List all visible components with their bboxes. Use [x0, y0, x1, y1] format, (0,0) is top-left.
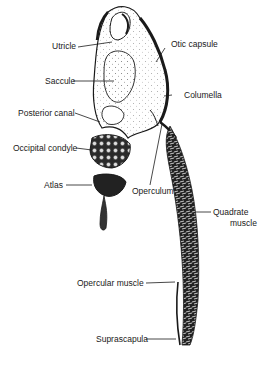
label-saccule: Saccule: [45, 77, 75, 86]
label-atlas: Atlas: [44, 181, 63, 190]
label-quadrate-muscle: muscle: [230, 219, 257, 228]
label-suprascapula: Suprascapula: [96, 335, 148, 344]
label-posterior-canal: Posterior canal: [18, 109, 75, 118]
label-columella: Columella: [184, 91, 222, 100]
anatomy-figure: Utricle Saccule Posterior canal Occipita…: [0, 0, 269, 377]
label-opercular-muscle: Opercular muscle: [77, 279, 144, 288]
label-otic-capsule: Otic capsule: [171, 40, 218, 49]
label-occipital-condyle: Occipital condyle: [13, 144, 77, 153]
label-quadrate: Quadrate: [213, 208, 248, 217]
label-operculum: Operculum: [132, 187, 174, 196]
label-utricle: Utricle: [52, 42, 76, 51]
